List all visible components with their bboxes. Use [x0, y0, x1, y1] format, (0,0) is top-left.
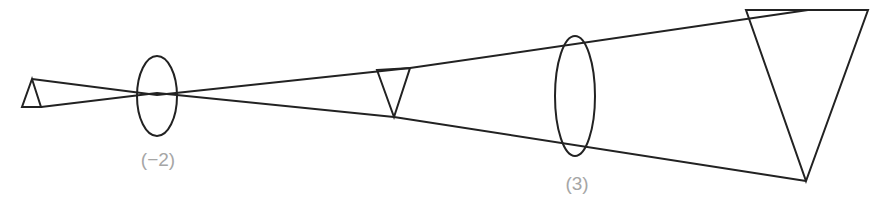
final-image-triangle — [746, 10, 868, 181]
lens-1-label: (−2) — [141, 149, 175, 170]
lens-2-label: (3) — [565, 173, 588, 194]
upper-ray — [32, 10, 808, 95]
intermediate-image-triangle — [377, 68, 410, 117]
optics-diagram: (−2) (3) — [0, 0, 877, 206]
object-triangle — [22, 79, 41, 107]
lens-2-ellipse — [555, 36, 595, 156]
